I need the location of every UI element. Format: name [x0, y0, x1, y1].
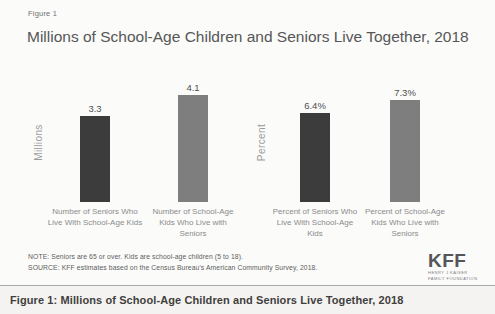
bar-value-label: 4.1 — [186, 82, 199, 93]
bar — [300, 113, 330, 203]
bar-column: 4.1Number of School-Age Kids Who Live wi… — [144, 82, 242, 239]
bar — [390, 100, 420, 202]
millions-chart: Millions 3.3Number of Seniors Who Live W… — [30, 82, 242, 239]
bar-stack: 4.1 — [178, 82, 208, 202]
bar — [80, 116, 110, 202]
figure-label: Figure 1 — [28, 9, 57, 18]
y-axis-label-millions: Millions — [30, 82, 46, 202]
bar-value-label: 6.4% — [304, 100, 326, 111]
charts-row: Millions 3.3Number of Seniors Who Live W… — [0, 82, 495, 242]
bar-column: 6.4%Percent of Seniors Who Live With Sch… — [270, 82, 360, 239]
note-text: NOTE: Seniors are 65 or over. Kids are s… — [28, 253, 243, 260]
source-text: SOURCE: KFF estimates based on the Censu… — [28, 264, 317, 271]
bar-stack: 3.3 — [80, 82, 110, 202]
bar-stack: 6.4% — [300, 82, 330, 202]
category-label: Percent of School-Age Kids Who Live with… — [360, 207, 450, 239]
kff-logo: KFF HENRY J KAISER FAMILY FOUNDATION — [428, 251, 478, 281]
kff-logo-subline-2: FAMILY FOUNDATION — [428, 276, 478, 282]
caption-bar: Figure 1: Millions of School-Age Childre… — [0, 285, 495, 314]
chart-title: Millions of School-Age Children and Seni… — [27, 27, 475, 47]
bar-value-label: 7.3% — [394, 87, 416, 98]
percent-chart: Percent 6.4%Percent of Seniors Who Live … — [254, 82, 450, 239]
bar — [178, 95, 208, 202]
percent-bars: 6.4%Percent of Seniors Who Live With Sch… — [270, 82, 450, 239]
figure-card: Figure 1 Millions of School-Age Children… — [0, 0, 495, 314]
bar-value-label: 3.3 — [88, 103, 101, 114]
category-label: Percent of Seniors Who Live With School-… — [270, 207, 360, 239]
bar-stack: 7.3% — [390, 82, 420, 202]
bar-column: 7.3%Percent of School-Age Kids Who Live … — [360, 82, 450, 239]
millions-bars: 3.3Number of Seniors Who Live With Schoo… — [46, 82, 242, 239]
y-axis-label-percent: Percent — [254, 82, 270, 202]
caption-text: Figure 1: Millions of School-Age Childre… — [10, 294, 403, 306]
category-label: Number of School-Age Kids Who Live with … — [145, 207, 241, 239]
bar-column: 3.3Number of Seniors Who Live With Schoo… — [46, 82, 144, 239]
category-label: Number of Seniors Who Live With School-A… — [47, 207, 143, 229]
kff-logo-text: KFF — [428, 251, 478, 270]
